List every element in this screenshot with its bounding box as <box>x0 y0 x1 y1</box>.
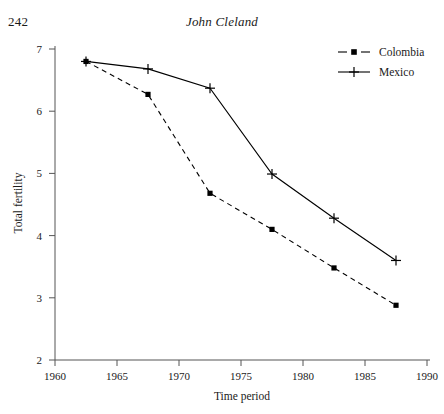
chart-svg: 234567 1960196519701975198019851990 Time… <box>0 0 444 414</box>
marker-square-colombia <box>145 92 150 97</box>
y-tick-label: 3 <box>37 292 43 304</box>
book-page: 242 John Cleland 234567 1960196519701975… <box>0 0 444 414</box>
x-tick-label: 1960 <box>44 370 67 382</box>
legend-item-mexico: Mexico <box>338 66 414 78</box>
y-tick-label: 6 <box>37 105 43 117</box>
series-line-colombia <box>86 61 396 305</box>
chart-axes <box>55 46 430 360</box>
marker-square-colombia <box>269 227 274 232</box>
y-tick-label: 2 <box>37 354 43 366</box>
x-axis-title: Time period <box>214 390 270 403</box>
legend-label-colombia: Colombia <box>379 46 424 58</box>
marker-plus-mexico <box>267 169 277 179</box>
x-axis-ticks: 1960196519701975198019851990 <box>44 360 439 382</box>
marker-plus-mexico <box>205 83 215 93</box>
chart-legend: ColombiaMexico <box>338 46 424 78</box>
marker-square-colombia <box>207 191 212 196</box>
y-axis-ticks: 234567 <box>37 43 56 366</box>
x-tick-label: 1965 <box>106 370 129 382</box>
marker-plus-mexico <box>81 56 91 66</box>
legend-item-colombia: Colombia <box>338 46 424 58</box>
fertility-line-chart: 234567 1960196519701975198019851990 Time… <box>0 0 444 414</box>
x-tick-label: 1985 <box>354 370 377 382</box>
legend-marker-square <box>351 49 357 55</box>
marker-plus-mexico <box>143 64 153 74</box>
x-tick-label: 1975 <box>230 370 253 382</box>
legend-label-mexico: Mexico <box>379 66 414 78</box>
y-tick-label: 4 <box>37 230 43 242</box>
y-axis-title: Total fertility <box>12 172 25 233</box>
marker-square-colombia <box>393 303 398 308</box>
y-tick-label: 7 <box>37 43 43 55</box>
x-tick-label: 1970 <box>168 370 191 382</box>
x-tick-label: 1980 <box>292 370 315 382</box>
marker-plus-mexico <box>391 255 401 265</box>
marker-plus-mexico <box>329 213 339 223</box>
y-tick-label: 5 <box>37 167 43 179</box>
x-tick-label: 1990 <box>416 370 439 382</box>
series-line-mexico <box>86 61 396 260</box>
marker-square-colombia <box>331 265 336 270</box>
chart-series-layer <box>81 56 401 307</box>
